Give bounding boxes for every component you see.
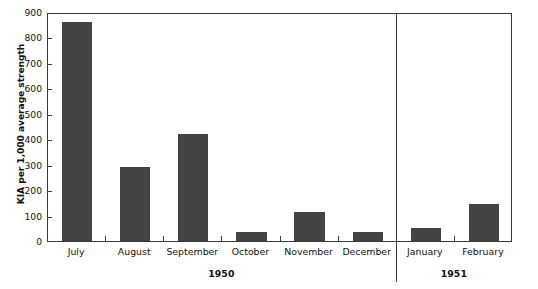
x-axis-month-label: October [221, 246, 279, 257]
y-tick-label: 900 [0, 7, 42, 18]
bar [469, 204, 499, 241]
x-axis-month-label: February [454, 246, 512, 257]
year-group-divider [396, 13, 397, 282]
plot-area [48, 14, 511, 241]
y-tick-mark [47, 217, 52, 218]
x-axis-month-label: July [47, 246, 105, 257]
x-tick-mark [338, 236, 339, 241]
y-tick-label: 500 [0, 109, 42, 120]
x-tick-mark [280, 236, 281, 241]
y-tick-label: 400 [0, 134, 42, 145]
y-tick-label: 600 [0, 83, 42, 94]
y-tick-label: 100 [0, 211, 42, 222]
bar [411, 228, 441, 241]
x-axis-month-label: December [338, 246, 396, 257]
y-tick-mark [47, 38, 52, 39]
bar [62, 22, 92, 241]
bar-chart-figure: KIA per 1,000 average strength 900800700… [0, 0, 538, 289]
bar [120, 167, 150, 241]
plot-frame [47, 13, 512, 242]
x-axis-year-label: 1950 [47, 268, 396, 279]
x-axis-year-label: 1951 [396, 268, 512, 279]
x-tick-mark [221, 236, 222, 241]
y-tick-label: 200 [0, 185, 42, 196]
x-axis-month-label: November [280, 246, 338, 257]
x-tick-mark [105, 236, 106, 241]
y-tick-label: 0 [0, 236, 42, 247]
x-axis-month-label: September [163, 246, 221, 257]
bar [178, 134, 208, 241]
x-tick-mark [454, 236, 455, 241]
y-tick-mark [47, 140, 52, 141]
y-tick-mark [47, 64, 52, 65]
y-tick-mark [47, 89, 52, 90]
bar [294, 212, 324, 241]
y-tick-label: 300 [0, 160, 42, 171]
y-tick-mark [47, 115, 52, 116]
bar [353, 232, 383, 241]
bar [236, 232, 266, 241]
x-tick-mark [163, 236, 164, 241]
y-tick-label: 700 [0, 58, 42, 69]
y-tick-label: 800 [0, 32, 42, 43]
y-tick-mark [47, 166, 52, 167]
x-axis-month-label: January [396, 246, 454, 257]
x-axis-month-label: August [105, 246, 163, 257]
y-tick-mark [47, 191, 52, 192]
